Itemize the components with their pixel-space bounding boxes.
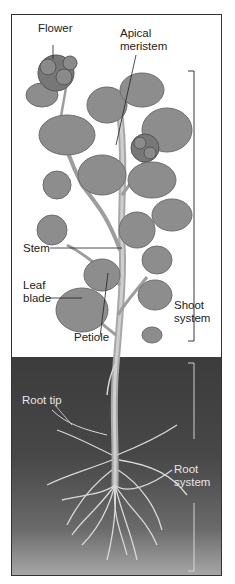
label-shoot-system-1: Shoot (174, 299, 204, 312)
label-leaf-blade-2: blade (23, 292, 51, 305)
label-leaf-blade-1: Leaf (23, 279, 45, 292)
label-flower: Flower (38, 22, 73, 35)
label-apical-meristem-1: Apical (120, 27, 151, 40)
label-stem: Stem (23, 242, 50, 255)
label-shoot-system-2: system (174, 312, 210, 325)
label-root-system-1: Root (174, 463, 198, 476)
label-apical-meristem-2: meristem (120, 40, 167, 53)
label-petiole: Petiole (74, 331, 109, 344)
cutoff-caption (10, 0, 215, 3)
label-root-tip: Root tip (22, 394, 62, 407)
label-root-system-2: system (174, 476, 210, 489)
plant-diagram-frame: Flower Apical meristem Stem Leaf blade P… (11, 14, 222, 576)
